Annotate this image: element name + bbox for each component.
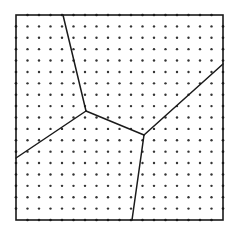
grid-dot — [26, 128, 28, 130]
grid-dot — [118, 116, 120, 118]
grid-dot — [107, 94, 109, 96]
grid-dot — [49, 150, 51, 152]
grid-dot — [61, 37, 63, 39]
grid-dot — [49, 105, 51, 107]
grid-dot — [153, 37, 155, 39]
grid-dot — [141, 48, 143, 50]
grid-dot — [176, 82, 178, 84]
grid-dot — [176, 207, 178, 209]
grid-dot — [187, 82, 189, 84]
grid-dot — [141, 105, 143, 107]
grid-dot — [176, 71, 178, 73]
grid-dot — [164, 150, 166, 152]
grid-dot — [95, 59, 97, 61]
grid-dot — [199, 116, 201, 118]
grid-dot — [176, 48, 178, 50]
grid-dot — [199, 196, 201, 198]
grid-dot — [118, 71, 120, 73]
grid-dot — [26, 116, 28, 118]
grid-dot — [84, 150, 86, 152]
grid-dot — [199, 162, 201, 164]
grid-dot — [164, 162, 166, 164]
grid-dot — [61, 59, 63, 61]
grid-dot — [84, 162, 86, 164]
grid-dot — [61, 162, 63, 164]
grid-dot — [210, 162, 212, 164]
grid-dot — [187, 116, 189, 118]
grid-dot — [210, 48, 212, 50]
grid-dot — [107, 59, 109, 61]
grid-dot — [95, 173, 97, 175]
grid-dot — [187, 37, 189, 39]
grid-dot — [153, 59, 155, 61]
grid-dot — [61, 173, 63, 175]
boundary-line — [86, 111, 144, 135]
grid-dot — [107, 37, 109, 39]
grid-dot — [26, 82, 28, 84]
grid-dot — [107, 207, 109, 209]
grid-dot — [118, 128, 120, 130]
grid-dot — [164, 59, 166, 61]
grid-dot — [130, 139, 132, 141]
grid-dot — [72, 25, 74, 27]
grid-dot — [95, 37, 97, 39]
boundary-line — [144, 64, 223, 135]
grid-dot — [72, 105, 74, 107]
grid-dot — [153, 25, 155, 27]
grid-dot — [118, 185, 120, 187]
grid-dot — [176, 196, 178, 198]
grid-dot — [130, 207, 132, 209]
grid-dot — [61, 150, 63, 152]
grid-dot — [26, 196, 28, 198]
grid-dot — [49, 71, 51, 73]
grid-dot — [49, 196, 51, 198]
grid-dot — [141, 116, 143, 118]
grid-dot — [72, 71, 74, 73]
grid-dot — [153, 105, 155, 107]
grid-dot — [199, 173, 201, 175]
grid-dot — [72, 150, 74, 152]
grid-dot — [107, 139, 109, 141]
grid-dot — [164, 207, 166, 209]
grid-dot — [141, 173, 143, 175]
grid-dot — [199, 59, 201, 61]
grid-dot — [210, 139, 212, 141]
grid-dot — [107, 116, 109, 118]
grid-dot — [153, 82, 155, 84]
dot-grid — [26, 25, 212, 210]
grid-dot — [38, 94, 40, 96]
grid-dot — [141, 94, 143, 96]
grid-dot — [187, 48, 189, 50]
grid-dot — [38, 37, 40, 39]
grid-dot — [84, 173, 86, 175]
grid-dot — [118, 82, 120, 84]
grid-dot — [95, 71, 97, 73]
grid-dot — [107, 82, 109, 84]
grid-dot — [49, 37, 51, 39]
grid-dot — [153, 150, 155, 152]
grid-dot — [95, 196, 97, 198]
grid-dot — [210, 116, 212, 118]
grid-dot — [38, 59, 40, 61]
grid-dot — [199, 185, 201, 187]
grid-dot — [210, 207, 212, 209]
grid-dot — [176, 25, 178, 27]
grid-dot — [130, 173, 132, 175]
grid-dot — [107, 185, 109, 187]
grid-dot — [210, 37, 212, 39]
grid-dot — [84, 128, 86, 130]
grid-dot — [72, 162, 74, 164]
grid-dot — [164, 173, 166, 175]
grid-dot — [176, 37, 178, 39]
grid-dot — [141, 25, 143, 27]
grid-dot — [118, 162, 120, 164]
grid-dot — [210, 128, 212, 130]
grid-dot — [141, 196, 143, 198]
grid-dot — [187, 71, 189, 73]
grid-dot — [118, 25, 120, 27]
grid-dot — [130, 162, 132, 164]
grid-dot — [130, 105, 132, 107]
grid-dot — [61, 207, 63, 209]
grid-dot — [176, 128, 178, 130]
grid-dot — [130, 196, 132, 198]
